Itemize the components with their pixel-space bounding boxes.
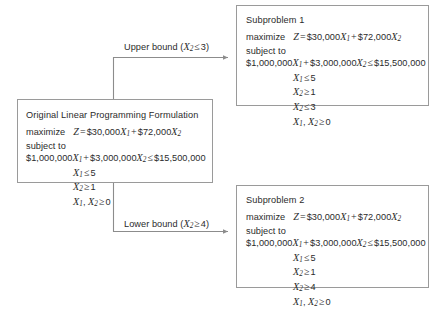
variable-x1: X1 <box>340 211 350 222</box>
less-equal-sign: ≤ <box>146 152 154 163</box>
subproblem-1-subject-to: subject to <box>246 46 428 57</box>
less-equal-sign: ≤ <box>193 41 201 52</box>
upper-bound-label: Upper bound (X2≤3) <box>124 41 209 55</box>
variable-x1: X1 <box>292 57 302 68</box>
variable-x1: X1 <box>293 116 303 127</box>
subproblem-2-c2-rhs: 1 <box>310 267 315 277</box>
original-objective: maximizeZ=$30,000X1+$72,000X2 <box>26 126 212 141</box>
original-c2-rhs: 1 <box>90 182 95 192</box>
subproblem-2-coef-x2: $72,000 <box>358 212 392 222</box>
variable-x2: X2 <box>293 281 303 292</box>
variable-x2: X2 <box>391 31 401 42</box>
subproblem-1-constraint-x2-lower: X2≥1 <box>246 86 428 101</box>
greater-equal-sign: ≥ <box>193 218 201 229</box>
subproblem-2-c1-rhs: 5 <box>310 253 315 263</box>
budget-rhs: $15,500,000 <box>374 238 426 248</box>
subproblem-1-c2-rhs: 1 <box>310 87 315 97</box>
budget-coef-x2: $3,000,000 <box>310 58 356 68</box>
plus-sign: + <box>302 237 310 248</box>
variable-x1: X1 <box>292 237 302 248</box>
plus-sign: + <box>302 57 310 68</box>
subproblem-2-c4-rhs: 0 <box>326 297 331 307</box>
subproblem-1-box: Subproblem 1 maximizeZ=$30,000X1+$72,000… <box>236 5 429 106</box>
original-c1-rhs: 5 <box>90 168 95 178</box>
variable-x2: X2 <box>183 218 193 229</box>
original-objective-keyword: maximize <box>26 127 65 137</box>
subproblem-1-constraint-budget: $1,000,000X1+$3,000,000X2≤$15,500,000 <box>246 57 428 72</box>
subproblem-2-coef-x1: $30,000 <box>307 212 341 222</box>
variable-x2: X2 <box>171 126 181 137</box>
subproblem-1-branch-rhs: 3 <box>310 102 315 112</box>
original-c3-rhs: 0 <box>106 197 111 207</box>
variable-x1: X1 <box>293 296 303 307</box>
variable-x2: X2 <box>305 116 317 127</box>
subproblem-2-constraint-nonneg: X1, X2≥0 <box>246 296 428 311</box>
plus-sign: + <box>82 152 90 163</box>
variable-x2: X2 <box>357 57 367 68</box>
subproblem-1-objective-keyword: maximize <box>246 32 285 42</box>
budget-rhs: $15,500,000 <box>374 58 426 68</box>
greater-equal-sign: ≥ <box>318 296 326 307</box>
greater-equal-sign: ≥ <box>98 196 106 207</box>
variable-x2: X2 <box>305 296 317 307</box>
upper-bound-label-value: 3) <box>201 42 209 52</box>
less-equal-sign: ≤ <box>366 237 374 248</box>
variable-x1: X1 <box>72 152 82 163</box>
subproblem-1-branch-constraint: X2≤3 <box>246 101 428 116</box>
subproblem-2-branch-rhs: 4 <box>310 282 315 292</box>
variable-x2: X2 <box>293 266 303 277</box>
subproblem-1-coef-x1: $30,000 <box>307 32 341 42</box>
original-subject-to: subject to <box>26 141 212 152</box>
original-formulation-box: Original Linear Programming Formulation … <box>17 99 213 183</box>
variable-x1: X1 <box>293 72 303 83</box>
subproblem-2-objective: maximizeZ=$30,000X1+$72,000X2 <box>246 211 428 226</box>
less-equal-sign: ≤ <box>366 57 374 68</box>
equals-sign: = <box>79 126 87 137</box>
plus-sign: + <box>350 31 358 42</box>
plus-sign: + <box>350 211 358 222</box>
lower-bound-label: Lower bound (X2≥4) <box>124 218 209 232</box>
lower-bound-label-text: Lower bound ( <box>124 219 183 229</box>
original-title: Original Linear Programming Formulation <box>26 109 212 121</box>
greater-equal-sign: ≥ <box>318 116 326 127</box>
subproblem-1-constraint-nonneg: X1, X2≥0 <box>246 116 428 131</box>
equals-sign: = <box>299 31 307 42</box>
variable-x1: X1 <box>73 196 83 207</box>
subproblem-2-subject-to: subject to <box>246 226 428 237</box>
subproblem-2-constraint-x1: X1≤5 <box>246 252 428 267</box>
subproblem-2-objective-keyword: maximize <box>246 212 285 222</box>
subproblem-1-c1-rhs: 5 <box>310 73 315 83</box>
variable-x2: X2 <box>137 152 147 163</box>
lower-bound-label-value: 4) <box>201 219 209 229</box>
subproblem-1-constraint-x1: X1≤5 <box>246 72 428 87</box>
variable-x2: X2 <box>85 196 97 207</box>
original-constraint-nonneg: X1, X2≥0 <box>26 196 212 211</box>
variable-x1: X1 <box>120 126 130 137</box>
subproblem-2-title: Subproblem 2 <box>246 194 428 206</box>
equals-sign: = <box>299 211 307 222</box>
upper-bound-label-text: Upper bound ( <box>124 42 183 52</box>
variable-x2: X2 <box>293 101 303 112</box>
subproblem-2-constraint-budget: $1,000,000X1+$3,000,000X2≤$15,500,000 <box>246 237 428 252</box>
budget-rhs: $15,500,000 <box>154 153 206 163</box>
variable-x2: X2 <box>357 237 367 248</box>
variable-x1: X1 <box>340 31 350 42</box>
variable-x2: X2 <box>73 181 83 192</box>
variable-x1: X1 <box>293 252 303 263</box>
variable-x2: X2 <box>293 86 303 97</box>
subproblem-1-title: Subproblem 1 <box>246 14 428 26</box>
original-coef-x1: $30,000 <box>87 127 121 137</box>
budget-coef-x2: $3,000,000 <box>310 238 356 248</box>
subproblem-1-c4-rhs: 0 <box>326 117 331 127</box>
budget-coef-x1: $1,000,000 <box>26 153 72 163</box>
subproblem-1-objective: maximizeZ=$30,000X1+$72,000X2 <box>246 31 428 46</box>
original-constraint-x1: X1≤5 <box>26 167 212 182</box>
budget-coef-x2: $3,000,000 <box>90 153 136 163</box>
plus-sign: + <box>130 126 138 137</box>
subproblem-1-coef-x2: $72,000 <box>358 32 392 42</box>
original-constraint-x2: X2≥1 <box>26 181 212 196</box>
subproblem-2-constraint-x2-lower: X2≥1 <box>246 266 428 281</box>
subproblem-2-branch-constraint: X2≥4 <box>246 281 428 296</box>
variable-x2: X2 <box>391 211 401 222</box>
